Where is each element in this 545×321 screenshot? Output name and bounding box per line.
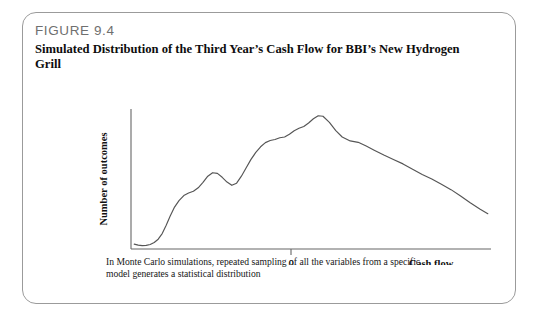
y-axis-label: Number of outcomes (98, 132, 109, 225)
distribution-curve (134, 116, 488, 246)
chart-plot-area: Number of outcomes 0 Cash flow (23, 75, 517, 265)
figure-caption: In Monte Carlo simulations, repeated sam… (106, 256, 446, 279)
distribution-chart-svg: Number of outcomes 0 Cash flow (23, 75, 517, 265)
figure-card: FIGURE 9.4 Simulated Distribution of the… (22, 12, 516, 304)
figure-number-label: FIGURE 9.4 (35, 23, 115, 38)
figure-title: Simulated Distribution of the Third Year… (35, 42, 465, 72)
